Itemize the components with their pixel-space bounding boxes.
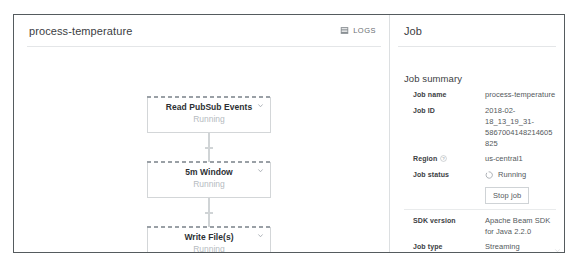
summary-row-job-id: Job ID 2018-02-18_13_19_31-5867004148214… — [390, 105, 564, 149]
summary-label-wrap: Region ? — [413, 153, 485, 164]
status-badge: Running — [498, 169, 526, 180]
panel-header-divider — [398, 46, 556, 47]
summary-row-job-name: Job name process-temperature — [390, 89, 564, 102]
node-top-dash — [147, 226, 271, 228]
summary-label: Job ID — [413, 105, 485, 116]
job-graph-header: process-temperature LOGS — [14, 15, 389, 46]
node-title: Read PubSub Events — [148, 102, 270, 112]
graph-node-write-files[interactable]: Write File(s) Running — [147, 227, 271, 252]
summary-label: Job name — [413, 89, 485, 100]
logs-icon — [340, 26, 349, 35]
stop-job-button[interactable]: Stop job — [485, 187, 529, 204]
summary-label: Region — [413, 153, 437, 164]
summary-value: Apache Beam SDK for Java 2.2.0 — [485, 215, 556, 237]
node-top-dash — [147, 161, 271, 163]
node-title: 5m Window — [148, 167, 270, 177]
summary-label: SDK version — [413, 215, 485, 226]
graph-edge-1-cap — [205, 147, 213, 149]
summary-divider — [404, 209, 556, 210]
job-summary-heading: Job summary — [404, 73, 462, 84]
logs-button-label: LOGS — [353, 26, 376, 35]
node-title: Write File(s) — [148, 232, 270, 242]
graph-edge-2-cap — [205, 212, 213, 214]
node-top-dash — [147, 96, 271, 98]
graph-node-5m-window[interactable]: 5m Window Running — [147, 162, 271, 198]
logs-button[interactable]: LOGS — [337, 24, 379, 37]
chevron-down-icon[interactable] — [257, 232, 264, 239]
summary-label: Job status — [413, 169, 485, 180]
job-graph-pane: process-temperature LOGS Read PubSu — [14, 15, 390, 252]
job-details-card: process-temperature LOGS Read PubSu — [13, 14, 565, 253]
job-summary-list: Job name process-temperature Job ID 2018… — [390, 89, 564, 252]
pipeline-graph: Read PubSub Events Running 5m Window Run… — [14, 47, 389, 252]
summary-value: 2018-02-18_13_19_31-5867004148214605825 — [485, 105, 556, 149]
job-info-pane: Job Job summary Job name process-tempera… — [390, 15, 564, 252]
graph-node-read-pubsub-events[interactable]: Read PubSub Events Running — [147, 97, 271, 133]
screenshot-root: process-temperature LOGS Read PubSu — [0, 0, 579, 267]
help-icon[interactable]: ? — [440, 155, 447, 162]
summary-value: us-central1 — [485, 153, 556, 164]
svg-text:?: ? — [442, 156, 445, 161]
chevron-down-icon[interactable] — [554, 247, 561, 252]
spinner-icon — [485, 171, 493, 179]
node-status: Running — [148, 114, 270, 124]
chevron-down-icon[interactable] — [257, 167, 264, 174]
summary-value: process-temperature — [485, 89, 556, 100]
autoscaling-heading: Autoscaling — [404, 251, 454, 252]
summary-value: Streaming — [485, 241, 556, 252]
node-status: Running — [148, 244, 270, 252]
panel-title: Job — [404, 25, 422, 37]
summary-row-region: Region ? us-central1 — [390, 153, 564, 166]
stop-job-row: Stop job — [390, 185, 564, 204]
page-title: process-temperature — [29, 25, 337, 37]
summary-row-job-status: Job status Running — [390, 169, 564, 182]
chevron-down-icon[interactable] — [257, 102, 264, 109]
job-info-header: Job — [390, 15, 564, 46]
summary-value-wrap: Running — [485, 169, 556, 180]
summary-row-sdk-version: SDK version Apache Beam SDK for Java 2.2… — [390, 215, 564, 237]
node-status: Running — [148, 179, 270, 189]
